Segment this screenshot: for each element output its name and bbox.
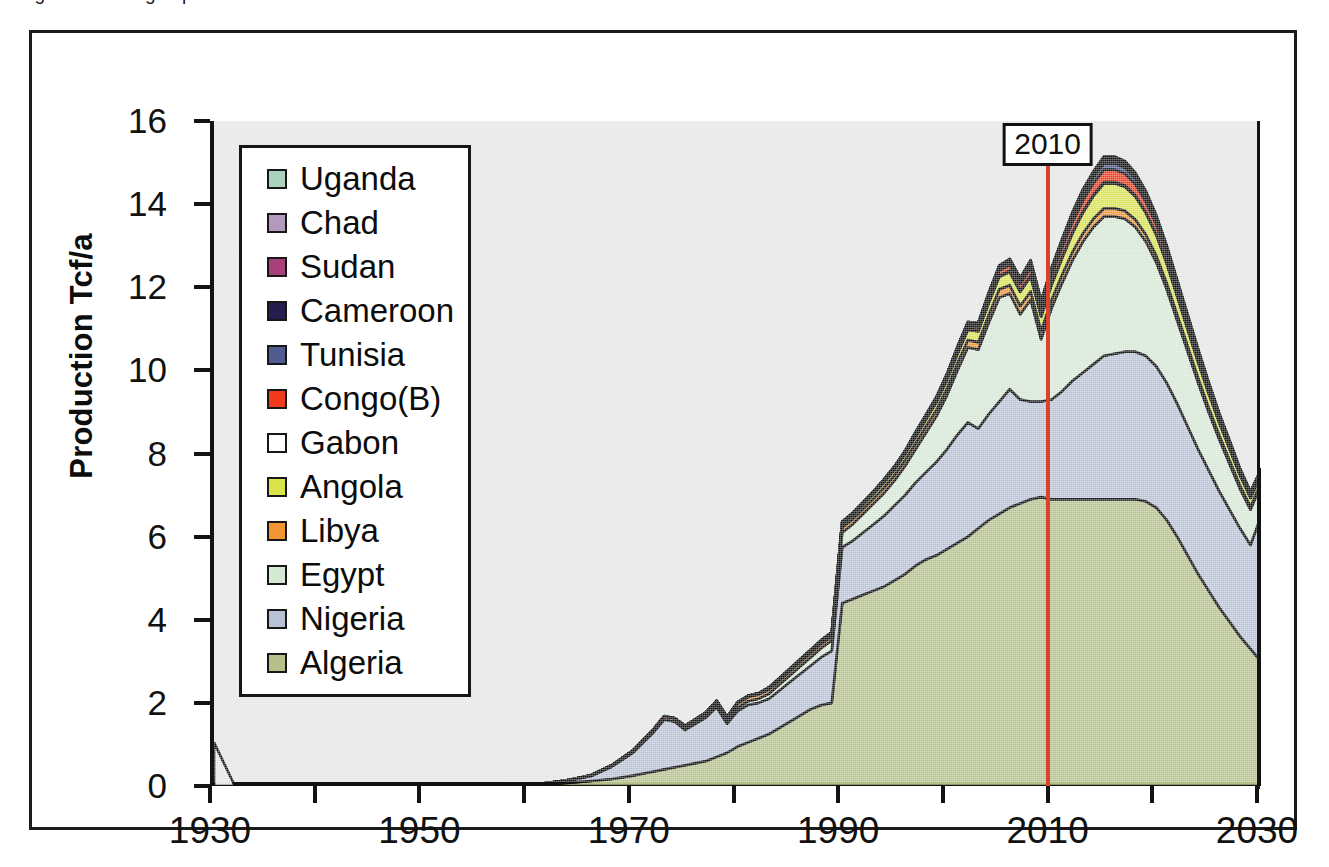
x-tick-label: 1990 (758, 811, 918, 851)
x-tick-label: 2010 (968, 811, 1128, 851)
y-tick-mark (194, 368, 210, 372)
legend-item-chad[interactable]: Chad (242, 201, 468, 245)
x-tick-mark (313, 786, 317, 803)
y-tick-label: 4 (107, 602, 167, 637)
figure-frame: Production Tcf/a 0246810121416 193019501… (29, 30, 1297, 830)
x-tick-mark (1150, 786, 1154, 803)
legend-item-sudan[interactable]: Sudan (242, 245, 468, 289)
legend-item-label: Tunisia (300, 338, 405, 372)
legend-swatch-icon (267, 521, 287, 541)
y-tick-label: 14 (107, 186, 167, 221)
legend-item-egypt[interactable]: Egypt (242, 553, 468, 597)
legend-swatch-icon (267, 169, 287, 189)
x-tick-mark (522, 786, 526, 803)
x-tick-mark (1046, 786, 1050, 803)
x-tick-mark (836, 786, 840, 803)
legend-item-label: Congo(B) (300, 382, 441, 416)
legend-swatch-icon (267, 213, 287, 233)
scan-artifact-spur (214, 742, 235, 786)
legend-item-label: Egypt (300, 558, 384, 592)
y-tick-label: 2 (107, 685, 167, 720)
legend-item-gabon[interactable]: Gabon (242, 421, 468, 465)
figure-caption-text: Figure African gas production (18, 0, 274, 5)
legend-swatch-icon (267, 565, 287, 585)
legend-item-label: Cameroon (300, 294, 454, 328)
y-axis-title: Production Tcf/a (64, 156, 100, 556)
legend-swatch-icon (267, 257, 287, 277)
legend-item-angola[interactable]: Angola (242, 465, 468, 509)
y-tick-label: 12 (107, 269, 167, 304)
legend-swatch-icon (267, 389, 287, 409)
y-tick-label: 16 (107, 103, 167, 138)
y-tick-mark (194, 285, 210, 289)
y-tick-mark (194, 202, 210, 206)
x-tick-label: 1930 (130, 811, 290, 851)
legend-swatch-icon (267, 433, 287, 453)
x-tick-mark (208, 786, 212, 803)
marker-label: 2010 (1002, 123, 1093, 166)
x-tick-mark (941, 786, 945, 803)
x-tick-mark (417, 786, 421, 803)
legend-swatch-icon (267, 477, 287, 497)
legend-swatch-icon (267, 609, 287, 629)
legend-item-label: Algeria (300, 646, 403, 680)
legend-swatch-icon (267, 345, 287, 365)
legend-swatch-icon (267, 301, 287, 321)
legend-item-label: Libya (300, 514, 379, 548)
y-tick-label: 8 (107, 436, 167, 471)
legend-item-label: Chad (300, 206, 379, 240)
legend-item-congo-b[interactable]: Congo(B) (242, 377, 468, 421)
y-tick-label: 6 (107, 519, 167, 554)
y-tick-label: 0 (107, 768, 167, 803)
figure-caption-clipped: Figure African gas production (0, 0, 1329, 14)
legend-item-libya[interactable]: Libya (242, 509, 468, 553)
legend-item-nigeria[interactable]: Nigeria (242, 597, 468, 641)
y-tick-mark (194, 701, 210, 705)
marker-vertical-line (1046, 163, 1050, 786)
legend-item-cameroon[interactable]: Cameroon (242, 289, 468, 333)
legend-item-tunisia[interactable]: Tunisia (242, 333, 468, 377)
legend: UgandaChadSudanCameroonTunisiaCongo(B)Ga… (239, 145, 471, 697)
x-tick-label: 1970 (549, 811, 709, 851)
x-tick-mark (1255, 786, 1259, 803)
x-tick-label: 1950 (339, 811, 499, 851)
legend-item-uganda[interactable]: Uganda (242, 157, 468, 201)
y-tick-label: 10 (107, 352, 167, 387)
y-tick-mark (194, 535, 210, 539)
legend-swatch-icon (267, 653, 287, 673)
plot-right-border (1257, 121, 1260, 789)
legend-item-label: Uganda (300, 162, 416, 196)
legend-item-label: Sudan (300, 250, 395, 284)
legend-item-label: Gabon (300, 426, 399, 460)
y-tick-mark (194, 618, 210, 622)
x-tick-label: 2030 (1177, 811, 1329, 851)
y-tick-mark (194, 452, 210, 456)
x-tick-mark (627, 786, 631, 803)
legend-item-algeria[interactable]: Algeria (242, 641, 468, 685)
legend-item-label: Angola (300, 470, 403, 504)
x-tick-mark (732, 786, 736, 803)
legend-item-label: Nigeria (300, 602, 405, 636)
y-tick-mark (194, 119, 210, 123)
